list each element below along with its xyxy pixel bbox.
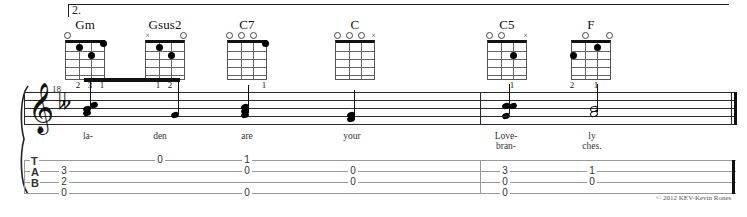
- fret-line: [146, 59, 184, 60]
- tab-line: [24, 171, 736, 172]
- tab-fret-number: 0: [155, 154, 165, 165]
- tab-barline: [24, 160, 25, 194]
- barline: [24, 92, 25, 125]
- lyric-syllable: la-: [70, 131, 106, 141]
- fret-line: [488, 59, 526, 60]
- final-barline: [734, 92, 737, 125]
- tab-fret-number: 0: [59, 187, 69, 198]
- volta-number: 2.: [72, 4, 81, 16]
- fret-line: [66, 59, 104, 60]
- chord-name: Gsus2: [142, 18, 188, 31]
- chord-open-mute-markers: [224, 31, 270, 40]
- finger-number: 2: [74, 80, 82, 91]
- staff-line: [24, 116, 736, 117]
- tab-line: [24, 182, 736, 183]
- chord-diagram[interactable]: C: [332, 18, 378, 92]
- tab-fret-number: 3: [59, 165, 69, 176]
- chord-name: C5: [484, 18, 530, 31]
- fret-line: [488, 51, 526, 52]
- muted-string-icon: [370, 32, 377, 39]
- fret-line: [572, 51, 610, 52]
- fretboard-grid: [571, 40, 611, 80]
- notehead: [170, 111, 180, 119]
- muted-string-icon: [144, 32, 151, 39]
- open-string-icon: [64, 32, 71, 39]
- note-stem: [509, 84, 510, 114]
- chord-diagram[interactable]: F21: [568, 18, 614, 92]
- tab-fret-number: 0: [242, 187, 252, 198]
- lyric-syllable: ches.: [574, 141, 610, 151]
- chord-diagram[interactable]: C51: [484, 18, 530, 92]
- staff-line: [24, 124, 736, 125]
- finger-number: 1: [260, 80, 268, 91]
- tab-line: [24, 160, 736, 161]
- fretboard-grid: [335, 40, 375, 80]
- beam: [84, 78, 180, 82]
- fret-line: [228, 51, 266, 52]
- fret-line: [336, 51, 374, 52]
- ledger-line: [498, 116, 516, 117]
- tab-fret-number: 0: [500, 176, 510, 187]
- fret-line: [572, 59, 610, 60]
- clef-octave-8: 8: [38, 125, 42, 134]
- lead-sheet: 2. Gm231Gsus212C71CC51F21 18 𝄞 8 𝄫: [0, 0, 747, 217]
- fret-line: [336, 59, 374, 60]
- lyric-syllable: den: [142, 131, 178, 141]
- string-line: [171, 43, 172, 79]
- chord-name: Gm: [62, 18, 108, 31]
- open-string-icon: [486, 32, 493, 39]
- fret-line: [488, 67, 526, 68]
- tab-letter-B: B: [30, 178, 40, 188]
- tablature-staff: T A B 32001000030010: [24, 160, 736, 200]
- open-string-icon: [250, 32, 257, 39]
- chord-open-mute-markers: [142, 31, 188, 40]
- tab-fret-number: 3: [500, 165, 510, 176]
- lyric-syllable: your: [334, 131, 370, 141]
- staff-line: [24, 92, 736, 93]
- fretboard-grid: [145, 40, 185, 80]
- notehead: [240, 111, 250, 119]
- tab-fret-number: 0: [587, 176, 597, 187]
- fret-dot: [570, 52, 577, 59]
- chord-name: F: [568, 18, 614, 31]
- open-string-icon: [606, 32, 613, 39]
- fret-dot: [262, 40, 269, 47]
- fret-line: [572, 67, 610, 68]
- fret-dot: [510, 52, 517, 59]
- lyric-syllable: are: [229, 131, 265, 141]
- treble-clef-icon: 𝄞: [28, 85, 54, 129]
- notehead: [346, 115, 356, 123]
- chord-open-mute-markers: [332, 31, 378, 40]
- lyric-syllable: bran-: [488, 141, 524, 151]
- finger-number: 1: [592, 80, 600, 91]
- tab-barline: [480, 160, 481, 194]
- open-string-icon: [346, 32, 353, 39]
- fret-dot: [594, 44, 601, 51]
- staff-line: [24, 108, 736, 109]
- finger-numbers: 1: [484, 80, 530, 92]
- fret-line: [146, 51, 184, 52]
- copyright-notice: © 2012 KEV-Kevin Rones: [656, 194, 731, 202]
- open-string-icon: [226, 32, 233, 39]
- fret-dot: [168, 52, 175, 59]
- tab-fret-number: 0: [500, 187, 510, 198]
- tab-fret-number: 0: [348, 176, 358, 187]
- barline: [480, 92, 481, 125]
- tab-fret-number: 2: [59, 176, 69, 187]
- open-string-icon: [334, 32, 341, 39]
- treble-staff: 𝄞 8 𝄫: [24, 92, 736, 126]
- string-line: [501, 43, 502, 79]
- string-line: [241, 43, 242, 79]
- chord-diagram[interactable]: C71: [224, 18, 270, 92]
- fret-line: [66, 51, 104, 52]
- open-string-icon: [238, 32, 245, 39]
- open-string-icon: [498, 32, 505, 39]
- finger-numbers: 21: [568, 80, 614, 92]
- lyric-syllable: Love-: [488, 131, 524, 141]
- lyric-syllable: ly: [574, 131, 610, 141]
- tab-fret-number: 0: [348, 165, 358, 176]
- fret-line: [146, 67, 184, 68]
- fret-line: [66, 75, 104, 76]
- fret-line: [228, 67, 266, 68]
- tab-final-barline: [732, 160, 735, 194]
